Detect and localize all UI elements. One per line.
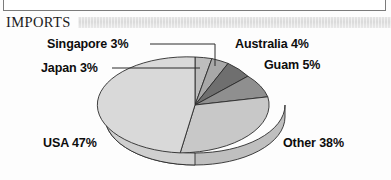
pie-slices	[97, 57, 269, 153]
pie-chart-graphic	[0, 33, 391, 180]
pie-label-other: Other 38%	[283, 136, 344, 150]
page-title: IMPORTS	[6, 14, 71, 31]
decorative-gray-bar	[78, 17, 391, 28]
pie-label-australia: Australia 4%	[235, 37, 309, 51]
pie-slice-usa	[97, 57, 195, 153]
chart-page: IMPORTS	[0, 0, 391, 180]
chart-header: IMPORTS	[0, 13, 391, 33]
pie-label-singapore: Singapore 3%	[47, 37, 128, 51]
pie-label-guam: Guam 5%	[264, 58, 320, 72]
pie-chart: Singapore 3% Japan 3% Australia 4% Guam …	[0, 33, 391, 180]
pie-label-japan: Japan 3%	[41, 61, 98, 75]
pie-label-usa: USA 47%	[43, 136, 97, 150]
top-border-rule	[3, 0, 386, 11]
